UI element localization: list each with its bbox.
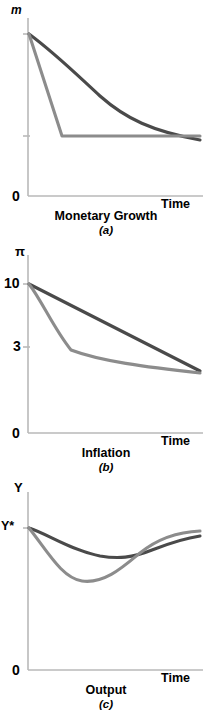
x-axis-label-b: Time [161, 435, 190, 448]
caption-title-b: Inflation [0, 447, 212, 460]
panel-monetary-growth: m 0 Time Monetary Growth (a) [0, 0, 212, 237]
y-axis-label-c: Y [14, 481, 23, 494]
x-axis-label-a: Time [161, 198, 190, 211]
caption-sub-c: (c) [0, 699, 212, 711]
caption-sub-a: (a) [0, 225, 212, 237]
curve-cold-turkey-a [29, 34, 200, 136]
y-tick-10-b: 10 [4, 276, 20, 290]
curve-cold-turkey-c [29, 528, 200, 581]
caption-sub-b: (b) [0, 462, 212, 474]
caption-title-a: Monetary Growth [0, 210, 212, 223]
panel-inflation: π 10 3 0 Time Inflation (b) [0, 237, 212, 474]
curve-gradual-a [29, 34, 200, 140]
caption-title-c: Output [0, 684, 212, 697]
x-axis-label-c: Time [161, 672, 190, 685]
y-tick-ystar-c: Y* [1, 520, 14, 533]
y-axis-label-a: m [11, 4, 22, 16]
disinflation-figure: m 0 Time Monetary Growth (a) π 10 3 0 Ti… [0, 0, 212, 711]
curve-gradual-c [29, 528, 200, 558]
y-tick-zero-c: 0 [12, 663, 20, 677]
y-tick-3-b: 3 [13, 339, 21, 353]
y-tick-zero-b: 0 [12, 426, 20, 440]
panel-output: Y Y* 0 Time Output (c) [0, 474, 212, 711]
y-tick-zero-a: 0 [12, 189, 20, 203]
y-axis-label-b: π [15, 245, 25, 258]
